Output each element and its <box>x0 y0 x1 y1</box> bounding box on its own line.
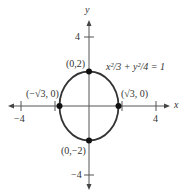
point-neg-sqrt3-0 <box>57 103 63 109</box>
y-axis-down-arrow <box>87 184 92 190</box>
y-tick-label-4: 4 <box>75 32 80 42</box>
x-axis-label: x <box>174 100 178 110</box>
point-label-0-2: (0,2) <box>66 59 85 69</box>
x-axis-right-arrow <box>164 104 170 109</box>
x-tick-label-neg4: −4 <box>14 114 25 124</box>
point-0-neg2 <box>86 138 92 144</box>
point-label-sqrt3-0: (√3, 0) <box>121 89 148 99</box>
x-axis-left-arrow <box>8 104 14 109</box>
equation-label: x²/3 + y²/4 = 1 <box>106 62 165 72</box>
y-axis-up-arrow <box>87 20 92 26</box>
point-sqrt3-0 <box>116 103 122 109</box>
point-0-2 <box>86 69 92 75</box>
point-label-neg-sqrt3-0: (−√3, 0) <box>26 89 59 99</box>
y-tick-label-neg4: −4 <box>71 170 82 180</box>
x-tick-label-4: 4 <box>153 114 158 124</box>
y-axis-label: y <box>85 5 89 15</box>
point-label-0-neg2: (0,−2) <box>61 146 86 156</box>
